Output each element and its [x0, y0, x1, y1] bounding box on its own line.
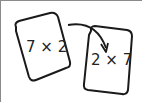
card-2-label: 2 × 7 [91, 51, 132, 69]
card-1-label: 7 × 2 [26, 38, 67, 56]
